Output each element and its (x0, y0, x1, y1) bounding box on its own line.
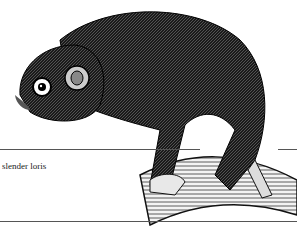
upper-rule-right (278, 149, 297, 150)
lower-rule (0, 221, 297, 222)
slender-loris-illustration (0, 0, 297, 231)
upper-rule (0, 149, 200, 150)
species-label: slender loris (2, 161, 46, 171)
loris-head (20, 45, 104, 121)
